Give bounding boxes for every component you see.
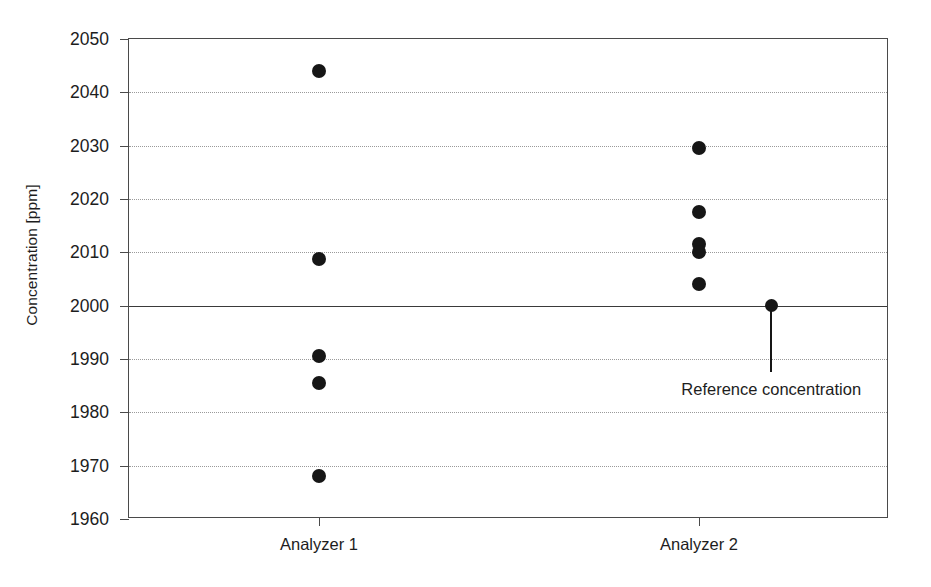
y-axis-tick-label: 2020 [70, 189, 109, 210]
y-axis-tick: 2040 [120, 92, 129, 93]
y-axis-tick-label: 2000 [70, 296, 109, 317]
x-axis-tick [319, 517, 320, 526]
data-point [312, 469, 326, 483]
y-axis-tick: 1990 [120, 359, 129, 360]
y-axis-tick-label: 1990 [70, 349, 109, 370]
x-axis-tick-label: Analyzer 1 [280, 535, 358, 554]
reference-annotation-leader-line [770, 306, 772, 373]
y-axis-tick: 1980 [120, 412, 129, 413]
reference-annotation-label: Reference concentration [681, 380, 861, 399]
y-axis-tick-label: 1970 [70, 456, 109, 477]
y-axis-tick-label: 1960 [70, 509, 109, 530]
data-point [312, 64, 326, 78]
y-axis-tick-label: 2050 [70, 29, 109, 50]
gridline [129, 359, 887, 360]
y-axis-tick-label: 2030 [70, 136, 109, 157]
gridline [129, 146, 887, 147]
data-point [692, 205, 706, 219]
y-axis-tick: 2030 [120, 146, 129, 147]
gridline [129, 252, 887, 253]
y-axis-tick-label: 1980 [70, 402, 109, 423]
y-axis-tick-label: 2010 [70, 242, 109, 263]
x-axis-tick [699, 517, 700, 526]
data-point [692, 245, 706, 259]
y-axis-title: Concentration [ppm] [23, 105, 41, 405]
y-axis-tick: 2050 [120, 39, 129, 40]
gridline [129, 412, 887, 413]
y-axis-tick: 2020 [120, 199, 129, 200]
gridline [129, 466, 887, 467]
data-point [312, 252, 326, 266]
data-point [692, 141, 706, 155]
gridline [129, 92, 887, 93]
concentration-dot-plot-figure: Concentration [ppm] 20502040203020202010… [0, 0, 931, 587]
y-axis-tick-label: 2040 [70, 82, 109, 103]
y-axis-tick: 2000 [120, 306, 129, 307]
data-point [692, 277, 706, 291]
y-axis-tick: 2010 [120, 252, 129, 253]
data-point [312, 349, 326, 363]
x-axis-tick-label: Analyzer 2 [660, 535, 738, 554]
data-point [312, 376, 326, 390]
y-axis-tick: 1970 [120, 466, 129, 467]
plot-area: 2050204020302020201020001990198019701960… [128, 38, 888, 518]
y-axis-tick: 1960 [120, 519, 129, 520]
gridline [129, 199, 887, 200]
